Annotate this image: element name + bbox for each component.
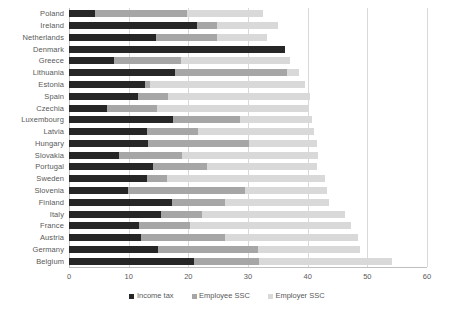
category-label-finland: Finland — [0, 198, 64, 207]
bar-segment-employer-ssc[interactable] — [259, 258, 391, 265]
bar-row[interactable] — [69, 69, 299, 76]
bar-segment-income-tax[interactable] — [69, 140, 148, 147]
bar-segment-employee-ssc[interactable] — [139, 222, 190, 229]
bar-segment-income-tax[interactable] — [69, 175, 147, 182]
bar-segment-employer-ssc[interactable] — [167, 175, 325, 182]
bar-segment-employee-ssc[interactable] — [141, 234, 225, 241]
bar-segment-employer-ssc[interactable] — [198, 128, 313, 135]
bar-row[interactable] — [69, 152, 318, 159]
bar-segment-employer-ssc[interactable] — [240, 116, 312, 123]
bar-segment-income-tax[interactable] — [69, 22, 197, 29]
bar-segment-employee-ssc[interactable] — [147, 128, 198, 135]
bar-row[interactable] — [69, 258, 392, 265]
bar-segment-employee-ssc[interactable] — [119, 152, 182, 159]
bar-segment-employee-ssc[interactable] — [194, 258, 259, 265]
bar-segment-employee-ssc[interactable] — [197, 22, 217, 29]
bar-segment-income-tax[interactable] — [69, 34, 156, 41]
x-tick-label-10: 10 — [114, 271, 144, 282]
bar-row[interactable] — [69, 187, 327, 194]
bar-segment-income-tax[interactable] — [69, 258, 194, 265]
bar-segment-income-tax[interactable] — [69, 57, 114, 64]
bar-segment-income-tax[interactable] — [69, 69, 175, 76]
bar-row[interactable] — [69, 34, 267, 41]
bar-row[interactable] — [69, 199, 329, 206]
bar-segment-income-tax[interactable] — [69, 81, 145, 88]
x-tick-label-40: 40 — [293, 271, 323, 282]
bar-row[interactable] — [69, 46, 285, 53]
bar-segment-income-tax[interactable] — [69, 105, 107, 112]
bar-segment-income-tax[interactable] — [69, 46, 285, 53]
category-label-poland: Poland — [0, 9, 64, 18]
bar-segment-income-tax[interactable] — [69, 152, 119, 159]
bar-row[interactable] — [69, 234, 358, 241]
x-tick-label-0: 0 — [54, 271, 84, 282]
bar-segment-employer-ssc[interactable] — [245, 187, 327, 194]
bar-segment-income-tax[interactable] — [69, 187, 128, 194]
bar-row[interactable] — [69, 246, 360, 253]
bar-segment-income-tax[interactable] — [69, 93, 138, 100]
bar-segment-income-tax[interactable] — [69, 199, 172, 206]
bar-segment-employee-ssc[interactable] — [148, 140, 249, 147]
bar-row[interactable] — [69, 163, 317, 170]
bar-segment-employer-ssc[interactable] — [225, 199, 328, 206]
employer-ssc-swatch — [268, 294, 273, 299]
category-label-ireland: Ireland — [0, 21, 64, 30]
bar-row[interactable] — [69, 175, 325, 182]
bar-segment-employee-ssc[interactable] — [158, 246, 258, 253]
bar-row[interactable] — [69, 22, 278, 29]
bar-segment-employee-ssc[interactable] — [107, 105, 157, 112]
bar-segment-employer-ssc[interactable] — [157, 105, 309, 112]
bar-row[interactable] — [69, 93, 310, 100]
legend-label: Employer SSC — [275, 291, 324, 301]
employee-ssc-swatch — [192, 294, 197, 299]
bar-segment-income-tax[interactable] — [69, 163, 153, 170]
bar-segment-employee-ssc[interactable] — [172, 199, 225, 206]
bar-row[interactable] — [69, 222, 351, 229]
bar-segment-employee-ssc[interactable] — [147, 175, 167, 182]
bar-row[interactable] — [69, 211, 345, 218]
bar-segment-employee-ssc[interactable] — [173, 116, 240, 123]
bar-segment-employer-ssc[interactable] — [190, 222, 351, 229]
bar-row[interactable] — [69, 140, 317, 147]
bar-segment-employee-ssc[interactable] — [153, 163, 207, 170]
category-label-france: France — [0, 221, 64, 230]
bar-segment-income-tax[interactable] — [69, 222, 139, 229]
bar-segment-employee-ssc[interactable] — [175, 69, 287, 76]
bar-segment-employer-ssc[interactable] — [225, 234, 358, 241]
bar-segment-employee-ssc[interactable] — [138, 93, 168, 100]
bar-segment-employer-ssc[interactable] — [249, 140, 317, 147]
bar-row[interactable] — [69, 116, 312, 123]
bar-segment-employer-ssc[interactable] — [258, 246, 360, 253]
bar-row[interactable] — [69, 128, 314, 135]
bar-segment-employer-ssc[interactable] — [217, 22, 278, 29]
category-label-germany: Germany — [0, 245, 64, 254]
bar-segment-income-tax[interactable] — [69, 234, 141, 241]
bar-segment-employer-ssc[interactable] — [207, 163, 317, 170]
bar-row[interactable] — [69, 105, 309, 112]
bar-segment-income-tax[interactable] — [69, 10, 95, 17]
bar-segment-income-tax[interactable] — [69, 116, 173, 123]
bar-segment-employer-ssc[interactable] — [168, 93, 310, 100]
bar-segment-employee-ssc[interactable] — [156, 34, 217, 41]
bar-row[interactable] — [69, 81, 305, 88]
bar-segment-employer-ssc[interactable] — [182, 152, 319, 159]
bar-segment-employer-ssc[interactable] — [287, 69, 299, 76]
bar-segment-employer-ssc[interactable] — [187, 10, 263, 17]
legend-item-employee-ssc[interactable]: Employee SSC — [192, 291, 250, 301]
bar-segment-employer-ssc[interactable] — [202, 211, 345, 218]
bar-segment-employer-ssc[interactable] — [217, 34, 267, 41]
bar-segment-employer-ssc[interactable] — [181, 57, 290, 64]
bar-segment-employer-ssc[interactable] — [150, 81, 305, 88]
bar-segment-employee-ssc[interactable] — [161, 211, 202, 218]
bar-segment-income-tax[interactable] — [69, 246, 158, 253]
bar-segment-employee-ssc[interactable] — [114, 57, 181, 64]
bar-segment-employee-ssc[interactable] — [95, 10, 187, 17]
bar-segment-income-tax[interactable] — [69, 211, 161, 218]
bar-segment-employee-ssc[interactable] — [128, 187, 245, 194]
legend-item-employer-ssc[interactable]: Employer SSC — [268, 291, 325, 301]
bars-container — [69, 8, 427, 267]
bar-row[interactable] — [69, 10, 263, 17]
bar-segment-income-tax[interactable] — [69, 128, 147, 135]
legend-item-income-tax[interactable]: Income tax — [129, 291, 173, 301]
bar-row[interactable] — [69, 57, 290, 64]
